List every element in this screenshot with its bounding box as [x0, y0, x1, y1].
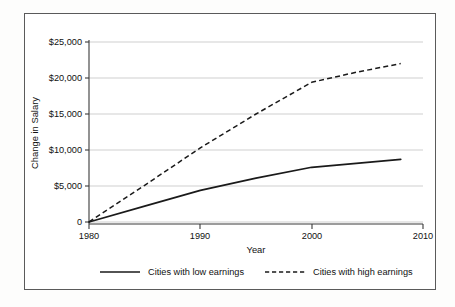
x-tick-label-2000: 2000	[302, 231, 322, 241]
gridlines	[89, 42, 423, 222]
x-tick-label-1980: 1980	[79, 231, 99, 241]
series-line-cities-with-high-earnings	[89, 64, 401, 222]
x-axis-title: Year	[247, 244, 266, 255]
x-axis-tick-labels: 1980 1990 2000 2010	[79, 231, 433, 241]
y-tick-label-0: 0	[77, 217, 82, 227]
legend-label-cities-with-high-earnings: Cities with high earnings	[313, 267, 413, 277]
x-tick-label-2010: 2010	[413, 231, 433, 241]
y-tick-label-25000: $25,000	[49, 37, 82, 47]
y-tick-label-5000: $5,000	[54, 181, 82, 191]
x-axis-ticks	[89, 224, 423, 229]
y-tick-label-20000: $20,000	[49, 73, 82, 83]
y-tick-label-15000: $15,000	[49, 109, 82, 119]
x-tick-label-1990: 1990	[190, 231, 210, 241]
y-axis-ticks	[85, 42, 89, 222]
chart-screenshot: $25,000 $20,000 $15,000 $10,000 $5,000 0…	[0, 0, 455, 307]
y-tick-label-10000: $10,000	[49, 145, 82, 155]
legend-label-cities-with-low-earnings: Cities with low earnings	[148, 267, 244, 277]
chart-legend: Cities with low earnings Cities with hig…	[100, 267, 413, 277]
line-chart: $25,000 $20,000 $15,000 $10,000 $5,000 0…	[0, 0, 455, 307]
y-axis-title: Change in Salary	[29, 97, 40, 169]
y-axis-tick-labels: $25,000 $20,000 $15,000 $10,000 $5,000 0	[49, 37, 82, 227]
series-line-cities-with-low-earnings	[89, 159, 401, 222]
